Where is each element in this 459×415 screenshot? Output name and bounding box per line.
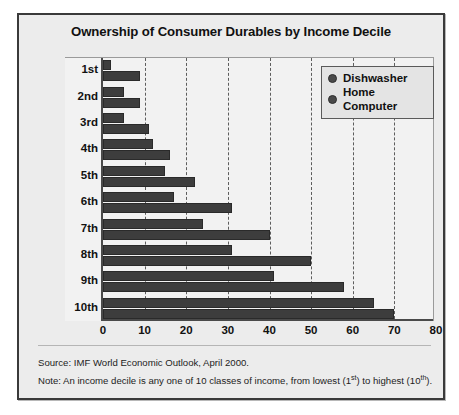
- figure-frame: Ownership of Consumer Durables by Income…: [17, 13, 445, 400]
- bar-group: 7th: [103, 216, 433, 242]
- y-axis-tick-label: 1st: [81, 63, 98, 75]
- bar-dishwasher: [103, 245, 232, 255]
- note-text-middle: ) to highest (10: [356, 375, 420, 386]
- plot-area: 01020304050607080 1st2nd3rd4th5th6th7th8…: [65, 57, 434, 321]
- note-text-suffix: ).: [426, 375, 432, 386]
- bar-dishwasher: [103, 166, 165, 176]
- x-axis-tick-label: 80: [430, 324, 443, 336]
- y-axis-tick-label: 4th: [81, 142, 98, 154]
- y-axis-tick-label: 10th: [74, 301, 98, 313]
- axes: 01020304050607080 1st2nd3rd4th5th6th7th8…: [101, 58, 433, 321]
- bar-dishwasher: [103, 139, 153, 149]
- x-axis-tick-label: 0: [100, 324, 106, 336]
- bar-home-computer: [103, 256, 311, 266]
- y-axis-tick-label: 3rd: [80, 116, 98, 128]
- bar-group: 9th: [103, 269, 433, 295]
- y-axis-tick-label: 8th: [81, 248, 98, 260]
- bar-dishwasher: [103, 113, 124, 123]
- footer-divider: [38, 345, 431, 346]
- bar-home-computer: [103, 282, 344, 292]
- circle-marker-icon: [328, 95, 337, 104]
- bar-home-computer: [103, 177, 195, 187]
- x-axis-tick-label: 40: [263, 324, 276, 336]
- legend-item-dishwasher: Dishwasher: [328, 71, 427, 85]
- y-axis-tick-label: 7th: [81, 222, 98, 234]
- bar-dishwasher: [103, 271, 274, 281]
- bar-group: 6th: [103, 190, 433, 216]
- bar-group: 10th: [103, 296, 433, 322]
- bar-group: 8th: [103, 243, 433, 269]
- bar-dishwasher: [103, 192, 174, 202]
- x-axis-tick-label: 50: [305, 324, 318, 336]
- page-title: Ownership of Consumer Durables by Income…: [19, 24, 443, 39]
- note-text-prefix: Note: An income decile is any one of 10 …: [38, 375, 351, 386]
- bar-home-computer: [103, 230, 270, 240]
- y-axis-tick-label: 2nd: [78, 90, 98, 102]
- y-axis-tick-label: 5th: [81, 169, 98, 181]
- bar-dishwasher: [103, 60, 111, 70]
- bar-home-computer: [103, 309, 394, 319]
- bar-group: 5th: [103, 164, 433, 190]
- definition-note: Note: An income decile is any one of 10 …: [38, 370, 431, 388]
- x-axis-tick-label: 70: [388, 324, 401, 336]
- bar-home-computer: [103, 124, 149, 134]
- x-axis-tick-label: 10: [138, 324, 151, 336]
- bar-home-computer: [103, 98, 140, 108]
- circle-marker-icon: [328, 74, 337, 83]
- bar-group: 4th: [103, 137, 433, 163]
- legend-label: Dishwasher: [343, 71, 408, 85]
- y-axis-tick-label: 9th: [81, 274, 98, 286]
- bar-home-computer: [103, 203, 232, 213]
- x-axis-tick-label: 60: [346, 324, 359, 336]
- source-note: Source: IMF World Economic Outlook, Apri…: [38, 355, 431, 370]
- bar-dishwasher: [103, 298, 374, 308]
- bar-home-computer: [103, 71, 140, 81]
- chart-screenshot: Ownership of Consumer Durables by Income…: [0, 0, 459, 415]
- legend-label: Home Computer: [343, 85, 427, 113]
- y-axis-tick-label: 6th: [81, 195, 98, 207]
- bar-dishwasher: [103, 219, 203, 229]
- bar-home-computer: [103, 150, 170, 160]
- x-axis-tick-label: 20: [180, 324, 193, 336]
- x-axis-tick-label: 30: [221, 324, 234, 336]
- bar-dishwasher: [103, 87, 124, 97]
- footnotes: Source: IMF World Economic Outlook, Apri…: [38, 355, 431, 388]
- legend-item-home-computer: Home Computer: [328, 85, 427, 113]
- legend: Dishwasher Home Computer: [321, 66, 434, 119]
- figure-background: Ownership of Consumer Durables by Income…: [19, 15, 443, 398]
